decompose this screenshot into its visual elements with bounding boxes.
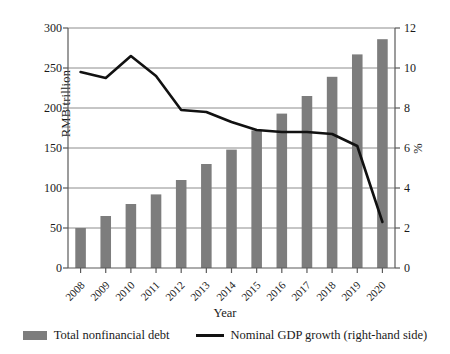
chart-figure: RMB trillion % Year 050100150200250300 0… [0, 0, 450, 354]
legend-item-line: Nominal GDP growth (right-hand side) [196, 328, 428, 343]
legend-line-swatch [196, 334, 224, 337]
legend-bar-swatch [23, 331, 47, 340]
legend-bar-label: Total nonfinancial debt [54, 328, 170, 343]
chart-legend: Total nonfinancial debt Nominal GDP grow… [0, 328, 450, 343]
legend-item-bar: Total nonfinancial debt [23, 328, 170, 343]
legend-line-label: Nominal GDP growth (right-hand side) [231, 328, 428, 343]
plot-area [0, 0, 450, 354]
bar-series [75, 39, 387, 268]
